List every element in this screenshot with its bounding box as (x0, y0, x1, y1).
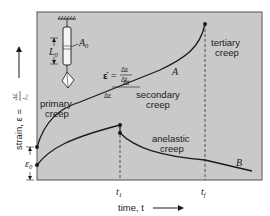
svg-text:ΔL: ΔL (11, 92, 18, 101)
rate-eq-num: Δε (121, 66, 128, 73)
epsilon0-label: ε0 (25, 158, 33, 170)
secondary-creep-label-2: creep (146, 99, 170, 110)
svg-text:L₀: L₀ (21, 94, 28, 101)
curve-b-start-dot (35, 163, 39, 167)
tertiary-creep-label-2: creep (215, 47, 239, 58)
tf-tick-label: tf (201, 186, 207, 198)
curve-b-label: B (236, 157, 242, 168)
primary-creep-label-2: creep (45, 108, 69, 119)
rate-eq-equals: = (111, 69, 117, 80)
x-axis-arrow-icon (153, 205, 184, 211)
t1-tick-label: t1 (116, 186, 122, 198)
anelastic-creep-label-2: creep (160, 143, 184, 154)
svg-text:strain, ε =: strain, ε = (13, 109, 24, 150)
slope-delta-eps: Δε (104, 92, 111, 99)
slope-delta-t: Δt (123, 79, 129, 86)
curve-a-start-dot (35, 145, 39, 149)
y-axis-arrow-icon (16, 46, 22, 78)
creep-diagram: L0 A0 ε̇ = Δε Δt Δt Δε primary creep sec… (0, 0, 270, 216)
x-axis-label: time, t (118, 202, 144, 213)
y-axis-label: strain, ε = ΔL L₀ (11, 91, 28, 150)
curve-a-label: A (171, 66, 179, 77)
curve-a-fracture-dot (203, 22, 207, 26)
